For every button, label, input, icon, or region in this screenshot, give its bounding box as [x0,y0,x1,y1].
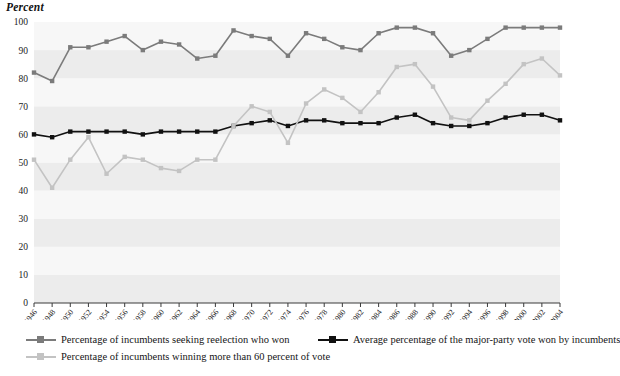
series-marker-2 [195,157,199,161]
series-marker-2 [68,157,72,161]
x-axis-tick-label: 1984 [367,308,384,320]
series-marker-2 [376,90,380,94]
series-marker-1 [86,129,90,133]
series-marker-1 [522,113,526,117]
series-marker-2 [177,169,181,173]
x-axis-tick-label: 1974 [276,308,293,320]
series-marker-0 [431,31,435,35]
series-marker-2 [449,115,453,119]
x-axis-tick-label: 1956 [113,308,130,320]
series-marker-0 [231,28,235,32]
series-marker-1 [322,118,326,122]
x-axis-tick-label: 1994 [457,308,474,320]
y-axis-tick-label: 40 [19,186,29,196]
series-marker-0 [340,45,344,49]
series-marker-2 [159,166,163,170]
legend-item-major-party-vote-won[interactable]: Average percentage of the major-party vo… [318,332,620,347]
series-marker-1 [395,115,399,119]
series-marker-0 [32,70,36,74]
plot-band [34,163,560,191]
y-axis-tick-label: 100 [14,17,29,27]
legend-label: Average percentage of the major-party vo… [353,334,620,345]
plot-band [34,191,560,219]
series-marker-1 [485,121,489,125]
legend-label: Percentage of incumbents winning more th… [61,351,330,362]
series-marker-0 [268,37,272,41]
series-marker-0 [376,31,380,35]
x-axis-tick-label: 1986 [385,308,402,320]
series-marker-2 [213,157,217,161]
series-marker-1 [304,118,308,122]
series-marker-0 [122,34,126,38]
legend-item-winning-more-than-60-percent[interactable]: Percentage of incumbents winning more th… [26,349,330,364]
series-marker-0 [485,37,489,41]
x-axis-tick-label: 1962 [167,308,184,320]
series-marker-2 [32,157,36,161]
plot-band [34,106,560,134]
series-marker-2 [249,104,253,108]
x-axis-tick-label: 1964 [185,308,202,320]
series-marker-1 [503,115,507,119]
y-axis-tick-label: 90 [19,46,29,56]
series-marker-2 [286,141,290,145]
x-axis-tick-label: 1972 [258,308,275,320]
y-axis-tick-label: 10 [19,270,29,280]
series-marker-1 [467,124,471,128]
series-marker-0 [213,54,217,58]
series-marker-0 [195,56,199,60]
plot-band [34,50,560,78]
y-axis-tick-label: 20 [19,242,29,252]
series-marker-0 [413,25,417,29]
series-marker-0 [177,42,181,46]
series-marker-2 [522,62,526,66]
series-marker-1 [50,135,54,139]
x-axis-tick-label: 1958 [131,308,148,320]
plot-band [34,219,560,247]
y-axis-tick-label: 50 [19,158,29,168]
series-marker-2 [395,65,399,69]
series-marker-0 [68,45,72,49]
x-axis-tick-label: 1950 [58,308,75,320]
x-axis-tick-label: 1976 [294,308,311,320]
series-marker-1 [376,121,380,125]
x-axis-tick-label: 2002 [530,308,547,320]
series-marker-2 [467,118,471,122]
x-axis-tick-label: 1996 [476,308,493,320]
series-marker-1 [358,121,362,125]
x-axis-tick-label: 1952 [77,308,94,320]
plot-band [34,134,560,162]
series-marker-1 [558,118,562,122]
series-marker-0 [322,37,326,41]
y-axis-tick-label: 0 [23,298,28,308]
series-marker-1 [449,124,453,128]
x-axis-tick-label: 1954 [95,308,112,320]
plot-band [34,78,560,106]
series-marker-0 [540,25,544,29]
legend-label: Percentage of incumbents seeking reelect… [61,334,290,345]
series-marker-0 [159,39,163,43]
series-marker-2 [558,73,562,77]
y-axis-tick-label: 60 [19,130,29,140]
series-marker-2 [322,87,326,91]
x-axis-tick-label: 1992 [439,308,456,320]
legend-item-seeking-reelection-who-won[interactable]: Percentage of incumbents seeking reelect… [26,332,290,347]
series-marker-1 [249,121,253,125]
series-marker-2 [540,56,544,60]
x-axis-tick-label: 1980 [330,308,347,320]
series-marker-1 [104,129,108,133]
x-axis-tick-label: 1960 [149,308,166,320]
legend-swatch-icon [26,351,56,362]
series-marker-1 [286,124,290,128]
series-marker-1 [68,129,72,133]
series-marker-2 [485,98,489,102]
series-marker-1 [540,113,544,117]
x-axis-tick-label: 2004 [548,308,565,320]
series-marker-0 [50,79,54,83]
series-marker-0 [249,34,253,38]
series-marker-2 [50,186,54,190]
series-marker-0 [449,54,453,58]
legend-swatch-icon [318,334,348,345]
series-marker-1 [141,132,145,136]
series-marker-2 [104,172,108,176]
